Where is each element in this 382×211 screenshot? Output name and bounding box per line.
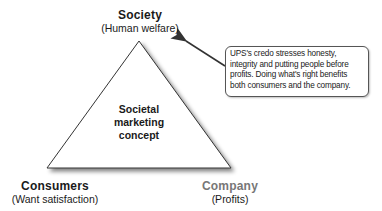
society-title: Society [90,8,190,22]
ups-callout: UPS's credo stresses honesty, integrity … [225,46,369,97]
company-subtitle: (Profits) [200,193,260,206]
society-subtitle: (Human welfare) [90,22,190,35]
vertex-company: Company (Profits) [200,179,260,206]
vertex-consumers: Consumers (Want satisfaction) [0,179,110,206]
vertex-society: Society (Human welfare) [90,8,190,35]
center-label-line-1: Societal [99,103,179,116]
consumers-subtitle: (Want satisfaction) [0,193,110,206]
company-title: Company [200,179,260,193]
consumers-title: Consumers [0,179,110,193]
center-label-line-2: marketing [99,116,179,129]
center-label: Societal marketing concept [99,103,179,142]
arrow-to-society [186,41,225,66]
center-label-line-3: concept [99,129,179,142]
